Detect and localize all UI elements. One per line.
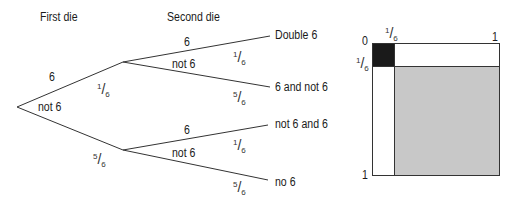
header-first-die: First die — [40, 10, 78, 24]
area-label-1-bottom: 1 — [362, 168, 368, 182]
first-branch-not6-label: not 6 — [38, 100, 61, 114]
outcome-no-6: no 6 — [275, 175, 296, 189]
outcome-not-6-and-6: not 6 and 6 — [275, 117, 328, 131]
second-branch-label: not 6 — [172, 57, 195, 71]
area-label-1-top: 1 — [492, 30, 498, 44]
no-six-cell — [395, 67, 500, 176]
second-prob: 5/6 — [233, 178, 246, 200]
outcome-double-6: Double 6 — [275, 28, 317, 42]
first-branch-6-label: 6 — [49, 70, 55, 84]
first-prob-1-6: 1/6 — [97, 80, 110, 102]
second-branch-label: 6 — [184, 123, 190, 137]
second-branch-label: not 6 — [172, 146, 195, 160]
area-divider-x: 1/6 — [385, 24, 398, 46]
area-divider-y: 1/6 — [356, 54, 369, 76]
second-prob: 5/6 — [233, 88, 246, 110]
area-square — [373, 44, 501, 176]
double-six-cell — [373, 44, 394, 66]
second-branch-label: 6 — [184, 35, 190, 49]
branch-6-not6 — [123, 62, 270, 87]
branch-first-not6 — [17, 107, 123, 150]
branch-6-6 — [123, 36, 270, 62]
header-second-die: Second die — [167, 10, 220, 24]
tree-lines — [0, 0, 510, 203]
first-prob-5-6: 5/6 — [93, 150, 106, 172]
second-prob: 1/6 — [233, 136, 246, 158]
outcome-6-and-not-6: 6 and not 6 — [275, 80, 328, 94]
second-prob: 1/6 — [233, 48, 246, 70]
area-label-0: 0 — [362, 34, 368, 48]
